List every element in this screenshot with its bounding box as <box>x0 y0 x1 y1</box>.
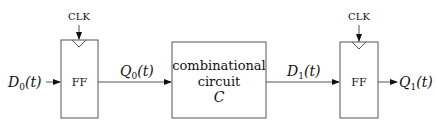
svg-text:combinational: combinational <box>172 58 266 73</box>
signal-d1: D1(t) <box>266 63 339 82</box>
svg-text:circuit: circuit <box>198 74 241 89</box>
svg-text:D1(t): D1(t) <box>286 63 321 81</box>
signal-q0: Q0(t) <box>98 63 171 82</box>
ff1-clk-label: CLK <box>348 11 370 22</box>
svg-text:Q0(t): Q0(t) <box>120 63 154 81</box>
svg-text:D0(t): D0(t) <box>7 74 42 92</box>
signal-q1: Q1(t) <box>378 74 433 92</box>
svg-text:Q1(t): Q1(t) <box>399 74 433 92</box>
clock-triangle-icon <box>352 42 366 49</box>
flip-flop-1: FF CLK <box>340 11 378 118</box>
flip-flop-0: FF CLK <box>61 11 98 118</box>
signal-d0: D0(t) <box>7 74 60 92</box>
ff1-label: FF <box>351 76 367 89</box>
ff0-clk-label: CLK <box>68 11 90 22</box>
combinational-circuit: combinational circuit C <box>172 42 266 118</box>
ff0-label: FF <box>72 76 88 89</box>
clock-triangle-icon <box>72 40 86 47</box>
sequential-circuit-diagram: FF CLK D0(t) Q0(t) combinational circuit… <box>0 0 436 128</box>
svg-text:C: C <box>214 89 225 105</box>
